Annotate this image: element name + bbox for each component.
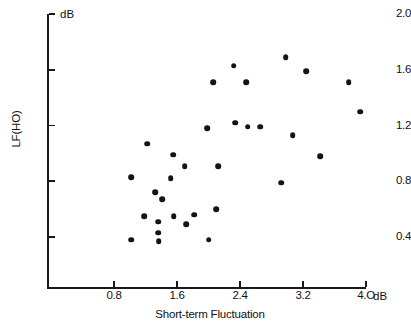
data-point — [170, 152, 176, 158]
x-tick-mark — [365, 281, 367, 287]
x-tick-mark — [176, 281, 178, 287]
y-tick-label: 1.6 — [367, 70, 411, 82]
data-point — [231, 63, 237, 69]
x-tick-mark — [302, 281, 304, 287]
data-point — [346, 79, 352, 85]
y-tick-mark — [49, 69, 55, 71]
y-axis-unit-label: dB — [60, 8, 74, 20]
y-tick-label: 0.8 — [367, 181, 411, 193]
data-point — [144, 141, 150, 147]
y-tick-label: 1.2 — [367, 126, 411, 138]
data-point — [184, 222, 190, 228]
x-tick-label: 3.2 — [283, 290, 323, 302]
data-point — [129, 237, 135, 243]
data-point — [141, 213, 147, 219]
data-point — [318, 153, 324, 159]
y-tick-mark — [49, 180, 55, 182]
data-point — [155, 219, 161, 225]
x-tick-label: 4.O — [346, 290, 386, 302]
data-point — [168, 176, 174, 182]
x-axis-title: Short-term Fluctuation — [110, 308, 310, 320]
data-point — [156, 238, 162, 244]
data-point — [303, 68, 309, 74]
y-tick-mark — [49, 13, 55, 15]
data-point — [182, 163, 188, 169]
data-point — [358, 109, 364, 115]
data-point — [204, 125, 210, 131]
x-axis-line — [47, 287, 366, 289]
data-point — [290, 132, 296, 138]
data-point — [244, 79, 250, 85]
y-tick-mark — [49, 236, 55, 238]
y-tick-label: 2.0 — [367, 14, 411, 26]
data-point — [214, 206, 220, 212]
x-tick-mark — [239, 281, 241, 287]
data-point — [129, 174, 135, 180]
x-tick-label: 0.8 — [94, 290, 134, 302]
data-point — [206, 237, 212, 243]
x-tick-mark — [113, 281, 115, 287]
data-point — [152, 190, 158, 196]
x-tick-label: 2.4 — [220, 290, 260, 302]
scatter-plot-figure: dB dB LF(HO) Short-term Fluctuation 0.40… — [0, 0, 411, 327]
data-point — [155, 230, 161, 236]
y-tick-mark — [49, 125, 55, 127]
data-point — [210, 79, 216, 85]
data-point — [245, 124, 251, 130]
y-tick-label: 0.4 — [367, 237, 411, 249]
y-axis-title: LF(HO) — [10, 94, 22, 164]
data-point — [283, 54, 289, 60]
data-point — [278, 180, 284, 186]
data-point — [171, 213, 177, 219]
x-tick-label: 1.6 — [157, 290, 197, 302]
data-point — [258, 124, 264, 130]
data-point — [215, 163, 221, 169]
data-point — [159, 197, 165, 203]
y-axis-line — [47, 14, 49, 288]
data-point — [232, 120, 238, 126]
data-point — [192, 212, 198, 218]
